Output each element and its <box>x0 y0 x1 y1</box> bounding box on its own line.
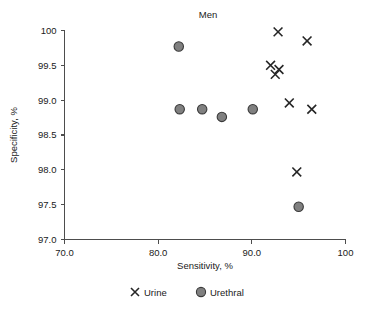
y-axis-ticks: 97.097.598.098.599.099.5100 <box>38 25 65 245</box>
series-urine <box>266 27 316 176</box>
scatter-plot: Men 97.097.598.098.599.099.5100 70.080.0… <box>0 0 373 309</box>
legend-item-urine: Urine <box>131 287 167 298</box>
x-axis-ticks: 70.080.090.0100 <box>55 240 353 258</box>
y-tick-label: 97.0 <box>38 234 57 245</box>
data-point-circle <box>248 105 257 114</box>
y-tick-label: 98.5 <box>38 129 57 140</box>
y-tick-label: 97.5 <box>38 199 57 210</box>
y-tick-label: 99.5 <box>38 60 57 71</box>
y-axis-title: Specificity, % <box>8 107 19 163</box>
x-axis-title: Sensitivity, % <box>177 260 233 271</box>
data-point-cross <box>271 70 280 79</box>
y-tick-label: 99.0 <box>38 95 57 106</box>
chart-legend: Urine Urethral <box>131 287 244 298</box>
legend-label-urethral: Urethral <box>210 287 244 298</box>
data-point-cross <box>266 61 275 70</box>
circle-marker-icon <box>196 287 205 296</box>
chart-title: Men <box>199 9 217 20</box>
data-point-circle <box>174 42 183 51</box>
data-point-cross <box>274 27 283 36</box>
x-tick-label: 100 <box>338 247 354 258</box>
data-point-circle <box>175 105 184 114</box>
data-point-circle <box>217 112 226 121</box>
cross-marker-icon <box>131 288 139 296</box>
data-point-circle <box>294 202 303 211</box>
data-point-circle <box>197 105 206 114</box>
y-tick-label: 98.0 <box>38 164 57 175</box>
legend-label-urine: Urine <box>144 287 167 298</box>
x-tick-label: 80.0 <box>149 247 168 258</box>
series-urethral <box>174 42 303 212</box>
data-point-cross <box>303 37 312 46</box>
data-point-cross <box>307 105 316 114</box>
y-tick-label: 100 <box>41 25 57 36</box>
data-point-cross <box>292 168 301 177</box>
x-tick-label: 70.0 <box>55 247 74 258</box>
legend-item-urethral: Urethral <box>196 287 243 298</box>
data-points-layer <box>174 27 316 211</box>
data-point-cross <box>285 99 294 108</box>
x-tick-label: 90.0 <box>243 247 262 258</box>
chart-figure: Men 97.097.598.098.599.099.5100 70.080.0… <box>0 0 373 309</box>
